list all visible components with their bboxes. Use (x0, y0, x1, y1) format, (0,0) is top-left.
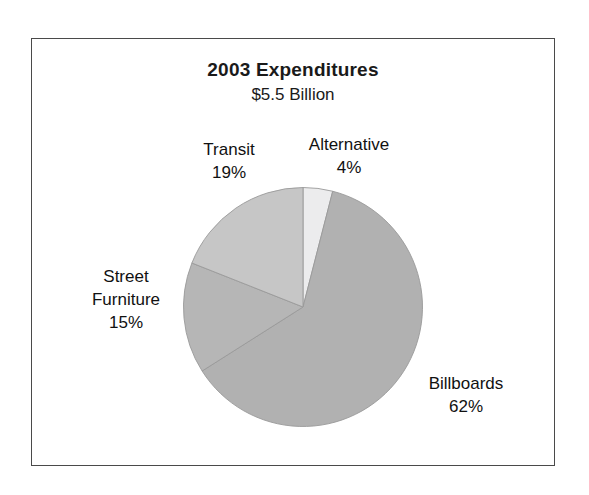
slice-label-transit-percent: 19% (170, 161, 288, 184)
slice-label-transit: Transit 19% (170, 138, 288, 184)
slice-label-street-furniture-name-line1: Street (62, 265, 190, 288)
slice-label-billboards: Billboards 62% (396, 372, 536, 418)
slice-label-street-furniture-name-line2: Furniture (62, 288, 190, 311)
pie-graphic (183, 187, 423, 427)
chart-subtitle: $5.5 Billion (31, 83, 555, 106)
chart-title-block: 2003 Expenditures $5.5 Billion (31, 58, 555, 106)
slice-label-street-furniture: Street Furniture 15% (62, 265, 190, 334)
slice-label-alternative: Alternative 4% (292, 133, 406, 179)
slice-label-alternative-percent: 4% (292, 156, 406, 179)
pie-svg (183, 187, 423, 427)
page-title: 2003 Expenditures (31, 58, 555, 82)
pie-chart-figure: 2003 Expenditures $5.5 Billion Transit 1… (0, 0, 589, 495)
slice-label-billboards-name: Billboards (396, 372, 536, 395)
slice-label-street-furniture-percent: 15% (62, 311, 190, 334)
pie-slice-group (183, 188, 422, 427)
slice-label-alternative-name: Alternative (292, 133, 406, 156)
slice-label-billboards-percent: 62% (396, 395, 536, 418)
slice-label-transit-name: Transit (170, 138, 288, 161)
